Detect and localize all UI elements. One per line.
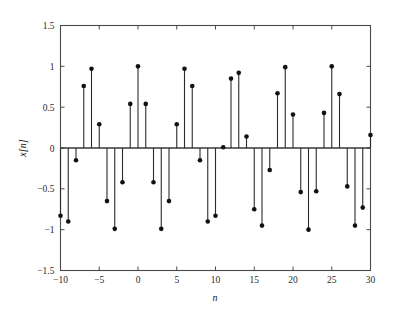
- stem-marker: [244, 134, 249, 139]
- stem-marker: [298, 190, 303, 195]
- stem-marker: [283, 65, 288, 70]
- x-tick-label: 20: [288, 275, 298, 285]
- y-tick-label: −0.5: [37, 184, 54, 194]
- stem-marker: [159, 227, 164, 232]
- x-tick-label: 15: [250, 275, 260, 285]
- stem-marker: [368, 133, 373, 138]
- stem-marker: [66, 219, 71, 224]
- stem-marker: [322, 111, 327, 116]
- stem-marker: [174, 122, 179, 127]
- stem-marker: [182, 66, 187, 71]
- x-tick-label: 25: [327, 275, 337, 285]
- stem-marker: [190, 84, 195, 89]
- stem-marker: [260, 223, 265, 228]
- y-tick-label: 1: [50, 62, 55, 72]
- stem-marker: [345, 184, 350, 189]
- stem-marker: [81, 84, 86, 89]
- y-axis-tick-labels: −1.5−1−0.500.511.5: [37, 21, 54, 276]
- stem-marker: [353, 223, 358, 228]
- x-tick-label: 10: [211, 275, 221, 285]
- y-tick-label: 0: [50, 144, 55, 154]
- stem-marker: [221, 145, 226, 150]
- x-tick-label: 0: [136, 275, 141, 285]
- stem-marker: [105, 199, 110, 204]
- y-axis-title: x[n]: [17, 139, 28, 157]
- stem-marker: [236, 71, 241, 76]
- stem-marker: [205, 219, 210, 224]
- stem-marker: [360, 205, 365, 210]
- stem-marker: [306, 227, 311, 232]
- stem-marker: [275, 91, 280, 96]
- stem-marker: [136, 64, 141, 69]
- y-tick-label: 0.5: [43, 103, 55, 113]
- stem-marker: [337, 92, 342, 97]
- y-tick-label: −1: [44, 225, 54, 235]
- stem-marker: [97, 122, 102, 127]
- stem-marker: [58, 213, 63, 218]
- stem-marker: [143, 102, 148, 107]
- stem-marker: [267, 168, 272, 173]
- stem-marker: [252, 207, 257, 212]
- y-tick-label: −1.5: [37, 266, 54, 276]
- x-axis-tick-labels: −10−5051015202530: [53, 275, 375, 285]
- stem-plot-figure: −10−5051015202530 −1.5−1−0.500.511.5 n x…: [0, 0, 393, 311]
- stem-marker: [128, 102, 133, 107]
- stem-marker: [151, 180, 156, 185]
- x-tick-label: 5: [174, 275, 179, 285]
- x-tick-label: 30: [366, 275, 376, 285]
- stem-marker: [74, 158, 79, 163]
- stem-marker: [120, 180, 125, 185]
- stem-marker: [89, 66, 94, 71]
- stem-marker: [329, 64, 334, 69]
- stem-marker: [229, 76, 234, 81]
- stem-marker: [198, 158, 203, 163]
- stem-plot-canvas: −10−5051015202530 −1.5−1−0.500.511.5 n x…: [0, 0, 393, 311]
- x-axis-title: n: [213, 292, 218, 303]
- stem-marker: [112, 227, 117, 232]
- stem-marker: [213, 213, 218, 218]
- y-tick-label: 1.5: [43, 21, 55, 31]
- stem-marker: [314, 189, 319, 194]
- stem-marker: [291, 112, 296, 117]
- x-tick-label: −5: [94, 275, 104, 285]
- x-tick-label: −10: [53, 275, 68, 285]
- stem-marker: [167, 199, 172, 204]
